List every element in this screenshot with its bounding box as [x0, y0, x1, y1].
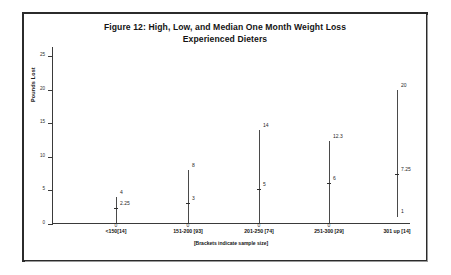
- plot-area: Pounds Lost 0510152025 42.250<150[14]830…: [52, 44, 410, 224]
- y-axis-tick-label: 10: [40, 153, 45, 158]
- low-value-label: 0: [186, 222, 189, 228]
- median-value-label: 7.25: [401, 166, 411, 172]
- high-value-label: 4: [120, 189, 123, 195]
- median-marker: [327, 183, 331, 184]
- range-stem: [188, 170, 189, 224]
- y-axis-tick: 10: [48, 157, 53, 158]
- y-axis-tick: 25: [48, 56, 53, 57]
- y-axis-tick: 20: [48, 90, 53, 91]
- high-value-label: 14: [263, 121, 269, 127]
- y-axis-tick: 0: [48, 224, 53, 225]
- high-value-label: 8: [192, 162, 195, 168]
- median-marker: [114, 208, 118, 209]
- high-value-label: 12.3: [333, 133, 343, 139]
- low-value-label: 0: [114, 222, 117, 228]
- median-value-label: 5: [263, 181, 266, 187]
- median-value-label: 2.25: [120, 200, 130, 206]
- y-axis-tick: 5: [48, 190, 53, 191]
- x-axis-category-label: <150[14]: [106, 228, 127, 234]
- figure-frame: Figure 12: High, Low, and Median One Mon…: [22, 12, 428, 262]
- low-value-label: 0: [257, 222, 260, 228]
- y-axis-tick-label: 25: [40, 52, 45, 57]
- y-axis-tick-label: 5: [42, 186, 45, 191]
- y-axis-line: [52, 47, 53, 224]
- y-axis-tick-label: 0: [42, 220, 45, 225]
- x-axis-line: [52, 223, 410, 224]
- x-axis-category-label: 251-300 [29]: [314, 228, 344, 234]
- range-stem: [116, 197, 117, 224]
- low-value-label: 0: [327, 222, 330, 228]
- median-marker: [186, 203, 190, 204]
- x-axis-category-label: 151-200 [93]: [173, 228, 203, 234]
- x-axis-footnote: [Brackets indicate sample size]: [52, 240, 410, 246]
- x-axis-category-label: 201-250 [74]: [244, 228, 274, 234]
- median-value-label: 3: [192, 195, 195, 201]
- median-value-label: 6: [333, 175, 336, 181]
- range-stem: [397, 90, 398, 218]
- chart-title-line-1: Figure 12: High, Low, and Median One Mon…: [104, 22, 346, 32]
- range-stem: [259, 130, 260, 224]
- y-axis-title: Pounds Lost: [30, 67, 36, 102]
- median-marker: [257, 189, 261, 190]
- low-value-label: 1: [401, 208, 404, 214]
- x-axis-category-label: 301 up [14]: [383, 228, 410, 234]
- y-axis-tick-label: 20: [40, 86, 45, 91]
- high-value-label: 20: [401, 81, 407, 87]
- chart-title: Figure 12: High, Low, and Median One Mon…: [24, 22, 426, 45]
- y-axis-tick: 15: [48, 123, 53, 124]
- y-axis-tick-label: 15: [40, 119, 45, 124]
- figure-page: Figure 12: High, Low, and Median One Mon…: [0, 0, 451, 275]
- median-marker: [395, 174, 399, 175]
